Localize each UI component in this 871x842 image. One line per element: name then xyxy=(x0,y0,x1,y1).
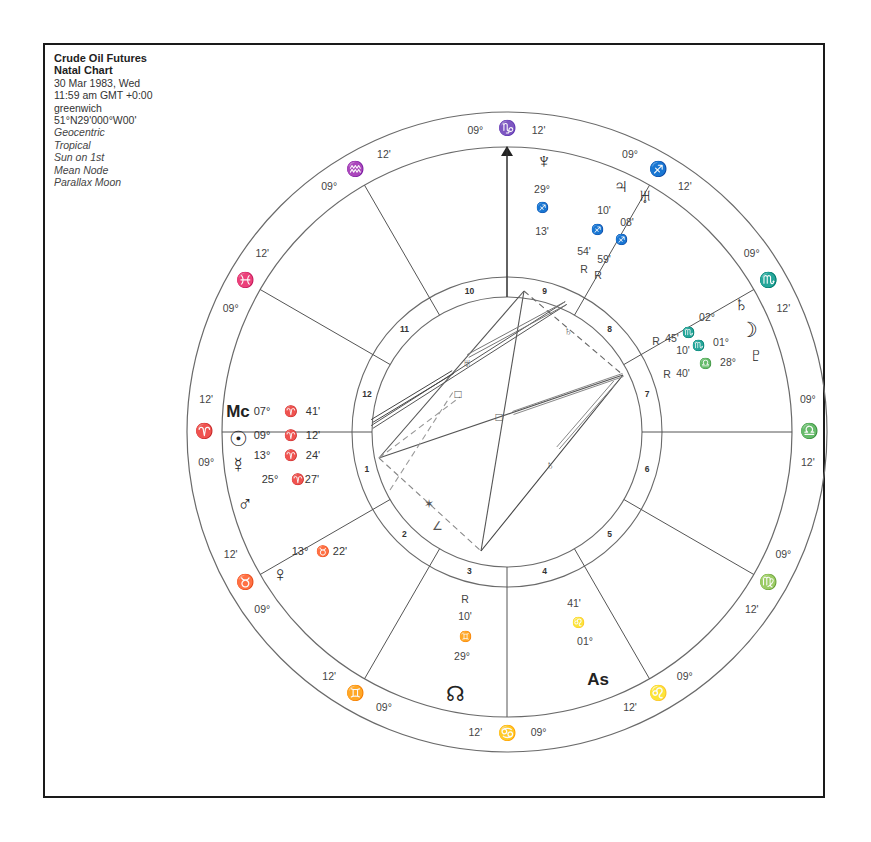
cusp-minute-label: 12' xyxy=(255,247,269,259)
planet-position-label: 13° xyxy=(254,449,271,461)
planet-position-label: R xyxy=(580,263,588,275)
cusp-minute-label: 12' xyxy=(623,701,637,713)
cusp-minute-label: 12' xyxy=(745,603,759,615)
planet-sun-icon: ☉ xyxy=(229,427,248,450)
cusp-degree-label: 09° xyxy=(254,603,270,615)
planet-mars-icon: ♂ xyxy=(237,492,253,515)
planet-jupiter-icon: ♃ xyxy=(613,174,629,197)
planet-position-label: 45' xyxy=(665,332,679,344)
planet-position-label: ♐ xyxy=(536,201,549,214)
aspect-glyph-icon: □ xyxy=(454,387,461,401)
planet-position-label: 41' xyxy=(567,597,581,609)
cusp-degree-label: 09° xyxy=(622,148,638,160)
cusp-degree-label: 09° xyxy=(800,393,816,405)
zodiac-sign-glyph-icon: ♈ xyxy=(195,422,214,440)
house-cusp-line xyxy=(624,500,754,575)
aspect-line xyxy=(559,383,616,449)
planet-position-label: R xyxy=(663,368,671,380)
planet-moon-node-icon: ☊ xyxy=(446,682,465,705)
planet-position-label: ♐ xyxy=(615,233,628,246)
planet-saturn-icon: ♄ xyxy=(733,292,749,315)
planet-uranus-icon: ♅ xyxy=(637,184,653,207)
zodiac-sign-glyph-icon: ♋ xyxy=(498,724,517,742)
aspect-line xyxy=(379,397,460,458)
planet-pluto-icon: ♇ xyxy=(748,343,764,366)
planet-position-label: 40' xyxy=(676,367,690,379)
house-number-label: 8 xyxy=(607,324,612,334)
planet-position-label: 01° xyxy=(713,336,729,348)
planet-position-label: 01° xyxy=(577,635,593,647)
zodiac-sign-glyph-icon: ♒ xyxy=(346,160,365,178)
planet-position-label: 09° xyxy=(254,429,271,441)
planet-position-label: 22' xyxy=(333,545,347,557)
planet-position-label: ♈ xyxy=(284,429,298,442)
planet-position-label: ♏ xyxy=(682,326,695,339)
cusp-degree-label: 09° xyxy=(531,726,547,738)
aspect-glyph-icon: ♅ xyxy=(463,356,472,370)
zodiac-sign-glyph-icon: ♏ xyxy=(759,271,778,289)
planet-position-label: 07° xyxy=(254,405,271,417)
cusp-minute-label: 12' xyxy=(532,124,546,136)
planet-position-label: ♏ xyxy=(692,339,705,352)
planet-position-label: ♎ xyxy=(699,357,712,370)
aspect-glyph-icon: ✶ xyxy=(424,497,434,511)
cusp-degree-label: 09° xyxy=(321,180,337,192)
house-number-label: 7 xyxy=(645,389,650,399)
zodiac-sign-glyph-icon: ♐ xyxy=(649,160,668,178)
house-number-label: 4 xyxy=(542,566,547,576)
cusp-degree-label: 09° xyxy=(198,456,214,468)
cusp-minute-label: 12' xyxy=(377,148,391,160)
house-number-label: 11 xyxy=(400,324,409,334)
planet-position-label: 29° xyxy=(454,650,470,662)
planet-position-label: ♈ xyxy=(291,473,305,486)
planet-position-label: 02° xyxy=(699,311,715,323)
planet-position-label: 10' xyxy=(676,344,690,356)
planet-position-label: 41' xyxy=(306,405,320,417)
house-number-label: 6 xyxy=(645,464,650,474)
planet-asc-icon: As xyxy=(587,670,609,689)
aspect-glyph-icon: ∠ xyxy=(432,519,443,533)
natal-chart-wheel: 09°♑12'09°♒12'09°♓12'09°♈12'09°♉12'09°♊1… xyxy=(0,0,871,842)
planet-position-label: 25° xyxy=(262,473,279,485)
zodiac-sign-glyph-icon: ♍ xyxy=(759,573,778,591)
cusp-degree-label: 09° xyxy=(376,701,392,713)
planet-position-label: 13' xyxy=(535,225,549,237)
aspect-line xyxy=(557,381,614,447)
aspect-line xyxy=(373,373,454,422)
house-number-label: 12 xyxy=(362,389,372,399)
aspect-line xyxy=(467,302,565,355)
planet-position-label: 28° xyxy=(720,356,736,368)
aspect-glyph-icon: ♄ xyxy=(546,458,555,472)
planet-position-label: ♊ xyxy=(459,630,472,643)
planet-position-label: ♈ xyxy=(284,405,298,418)
planet-neptune-icon: ♆ xyxy=(536,149,552,172)
house-cusp-line xyxy=(260,290,390,365)
cusp-minute-label: 12' xyxy=(199,393,213,405)
planet-position-label: ♌ xyxy=(572,616,585,629)
planet-position-label: 10' xyxy=(597,204,611,216)
planet-position-label: 08' xyxy=(620,216,634,228)
cusp-minute-label: 12' xyxy=(801,456,815,468)
cusp-degree-label: 09° xyxy=(467,124,483,136)
house-number-label: 1 xyxy=(365,464,370,474)
planet-position-label: 27' xyxy=(305,473,319,485)
aspect-line xyxy=(512,373,622,411)
house-band-ring xyxy=(352,277,662,587)
planet-venus-icon: ♀ xyxy=(272,562,288,585)
house-cusp-line xyxy=(365,185,440,315)
house-number-label: 9 xyxy=(542,286,547,296)
cusp-minute-label: 12' xyxy=(469,726,483,738)
planet-mercury-icon: ☿ xyxy=(230,453,246,476)
aspect-circle xyxy=(372,297,642,567)
cusp-minute-label: 12' xyxy=(777,302,791,314)
planet-position-label: ♉ xyxy=(316,545,330,558)
zodiac-sign-glyph-icon: ♓ xyxy=(236,271,255,289)
house-number-label: 3 xyxy=(467,566,472,576)
planet-position-label: R xyxy=(652,335,660,347)
cusp-minute-label: 12' xyxy=(322,670,336,682)
cusp-minute-label: 12' xyxy=(678,180,692,192)
planet-position-label: ♐ xyxy=(591,223,604,236)
planet-position-label: 13° xyxy=(292,545,309,557)
zodiac-sign-glyph-icon: ♊ xyxy=(346,684,365,702)
house-number-label: 2 xyxy=(402,529,407,539)
